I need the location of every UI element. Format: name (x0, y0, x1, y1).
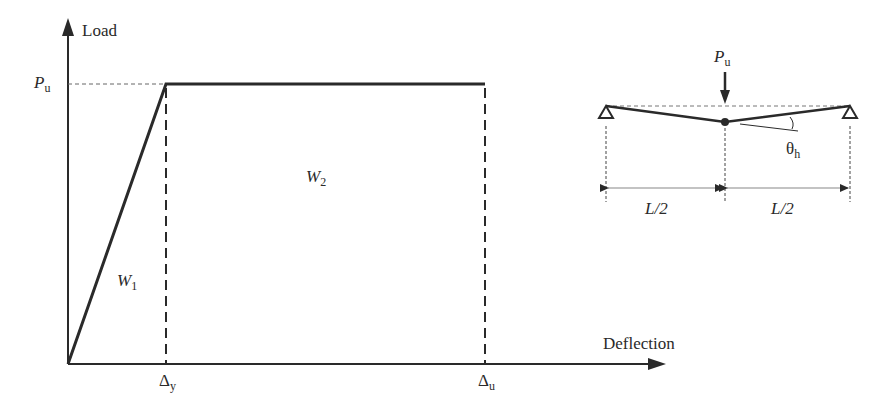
right-span-label: L/2 (771, 200, 794, 217)
delta-y-tick-label: Δy (159, 372, 176, 392)
rotation-label: θh (786, 140, 800, 160)
left-span-label: L/2 (645, 200, 668, 217)
load-arrow-icon (720, 90, 730, 104)
rotation-reference-line (740, 124, 798, 131)
x-axis (68, 358, 666, 370)
w1-region-label: W1 (117, 272, 137, 292)
rotation-arc-icon (790, 117, 793, 129)
delta-u-tick-label: Δu (478, 372, 495, 392)
w2-region-label: W2 (306, 168, 326, 188)
plastic-hinge-icon (721, 118, 729, 126)
beam-schematic (599, 72, 857, 202)
beam-load-label: Pu (714, 48, 730, 68)
y-axis (62, 18, 74, 364)
pu-tick-label: Pu (34, 74, 50, 94)
y-axis-label: Load (82, 22, 117, 39)
x-axis-label: Deflection (603, 335, 675, 352)
x-axis-arrow-icon (648, 358, 666, 370)
load-deflection-curve (68, 84, 485, 364)
y-axis-arrow-icon (62, 18, 74, 36)
